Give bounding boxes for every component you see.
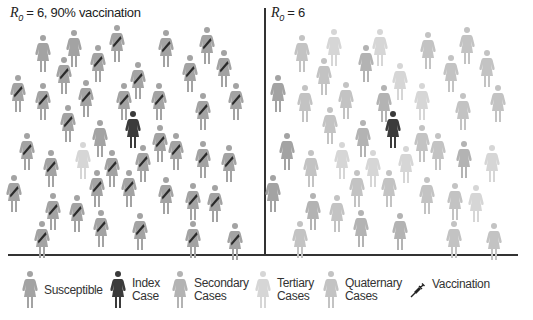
legend-label: QuaternaryCases (345, 277, 402, 303)
quaternary-person-icon (420, 31, 436, 71)
susceptible-person-icon (221, 144, 237, 184)
susceptible-person-icon (168, 132, 184, 172)
legend: Susceptible IndexCase SecondaryCases Ter… (0, 270, 533, 310)
tertiary-person-icon (372, 28, 388, 68)
right-panel-title: R0 = 6 (271, 5, 305, 23)
susceptible-person-icon (78, 79, 94, 119)
tertiary-person-icon (365, 149, 381, 189)
susceptible-person-icon (69, 194, 85, 234)
susceptible-person-icon (90, 44, 106, 84)
susceptible-person-icon (6, 174, 22, 214)
susceptible-person-icon (265, 174, 281, 214)
tertiary-person-icon (398, 145, 414, 185)
susceptible-person-icon (109, 24, 125, 64)
quaternary-person-icon (292, 220, 308, 260)
susceptible-person-icon (43, 149, 59, 189)
quaternary-person-icon (338, 81, 354, 121)
susceptible-person-icon (152, 124, 168, 164)
tertiary-person-icon (392, 62, 408, 102)
susceptible-person-icon (158, 176, 174, 216)
susceptible-person-icon (279, 132, 295, 172)
susceptible-person-icon (227, 222, 243, 262)
susceptible-person-icon (56, 56, 72, 96)
legend-item-tertiary: TertiaryCases (255, 270, 314, 310)
left-panel-title: R0 = 6, 90% vaccination (10, 5, 141, 23)
legend-label: Susceptible (44, 284, 103, 297)
susceptible-person-icon (207, 184, 223, 224)
susceptible-person-icon (10, 74, 26, 114)
index-person-icon (385, 110, 401, 150)
susceptible-person-icon (19, 132, 35, 172)
title-text: = 6, 90% vaccination (23, 5, 141, 20)
quaternary-person-icon (455, 92, 471, 132)
susceptible-person-icon (121, 169, 137, 209)
susceptible-person-icon (34, 220, 50, 260)
susceptible-person-icon (158, 29, 174, 69)
secondary-person-icon (456, 140, 472, 180)
legend-item-susceptible: Susceptible (22, 270, 103, 310)
title-text: = 6 (284, 5, 305, 20)
quaternary-person-icon (419, 176, 435, 216)
susceptible-person-icon (132, 212, 148, 252)
quaternary-person-icon (446, 220, 462, 260)
susceptible-person-icon (195, 140, 211, 180)
quaternary-person-icon (430, 132, 446, 172)
secondary-person-icon (353, 209, 369, 249)
susceptible-person-icon (60, 104, 76, 144)
susceptible-person-icon (93, 209, 109, 249)
legend-label: SecondaryCases (194, 277, 249, 303)
quaternary-person-icon (490, 84, 506, 124)
quaternary-person-icon (316, 57, 332, 97)
susceptible-person-icon (104, 149, 120, 189)
susceptible-person-icon (182, 54, 198, 94)
susceptible-person-icon (130, 61, 146, 101)
legend-item-secondary: SecondaryCases (172, 270, 249, 310)
quaternary-person-icon (443, 54, 459, 94)
quaternary-person-icon (297, 84, 313, 124)
quaternary-person-icon (329, 194, 345, 234)
tertiary-person-icon (484, 144, 500, 184)
quaternary-person-icon (303, 149, 319, 189)
person-icon (22, 270, 38, 310)
susceptible-person-icon (185, 182, 201, 222)
quaternary-person-icon (447, 182, 463, 222)
person-icon (323, 270, 339, 310)
susceptible-person-icon (199, 26, 215, 66)
tertiary-person-icon (414, 82, 430, 122)
susceptible-person-icon (151, 82, 167, 122)
tertiary-person-icon (334, 141, 350, 181)
legend-label: IndexCase (132, 277, 160, 303)
susceptible-person-icon (135, 144, 151, 184)
person-icon (255, 270, 271, 310)
susceptible-person-icon (185, 220, 201, 260)
quaternary-person-icon (486, 222, 502, 262)
quaternary-person-icon (349, 169, 365, 209)
susceptible-person-icon (228, 82, 244, 122)
quaternary-person-icon (459, 26, 475, 66)
secondary-person-icon (392, 212, 408, 252)
susceptible-person-icon (35, 34, 51, 74)
legend-item-vaccination: Vaccination (410, 270, 490, 298)
quaternary-person-icon (294, 34, 310, 74)
legend-item-index: IndexCase (110, 270, 160, 310)
legend-label: TertiaryCases (277, 277, 314, 303)
syringe-icon (410, 282, 426, 298)
panel-divider (264, 8, 266, 255)
susceptible-person-icon (195, 92, 211, 132)
person-icon (172, 270, 188, 310)
quaternary-person-icon (381, 169, 397, 209)
tertiary-person-icon (468, 184, 484, 224)
susceptible-person-icon (270, 74, 286, 114)
susceptible-person-icon (35, 82, 51, 122)
legend-item-quaternary: QuaternaryCases (323, 270, 402, 310)
person-icon (110, 270, 126, 310)
quaternary-person-icon (322, 106, 338, 146)
baseline (8, 254, 518, 256)
susceptible-person-icon (89, 169, 105, 209)
quaternary-person-icon (479, 49, 495, 89)
legend-label: Vaccination (432, 278, 490, 291)
quaternary-person-icon (414, 124, 430, 164)
secondary-person-icon (358, 44, 374, 84)
